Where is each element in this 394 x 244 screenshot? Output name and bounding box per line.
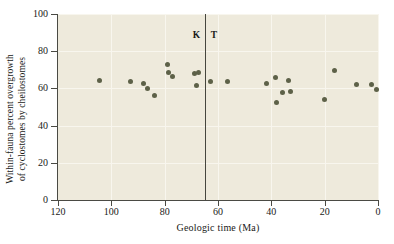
data-point [280,90,285,95]
kt-boundary-label-tertiary: T [211,30,217,40]
y-axis-spine [57,14,58,201]
x-axis-label: Geologic time (Ma) [58,222,378,233]
data-point [165,62,170,67]
y-axis-tick [51,14,57,15]
y-axis-tick [51,88,57,89]
y-axis-tick-label: 40 [8,121,48,131]
gridline-vertical [325,14,326,200]
data-point [264,81,269,86]
x-axis-tick-label: 40 [251,207,291,217]
data-point [194,83,199,88]
x-axis-tick-label: 0 [358,207,394,217]
y-axis-tick [51,200,57,201]
x-axis-tick-label: 20 [305,207,345,217]
data-point [225,79,230,84]
data-point [273,75,278,80]
data-point [374,87,379,92]
gridline-vertical [378,14,379,200]
data-point [274,100,279,105]
kt-boundary-line [205,14,206,200]
y-axis-tick-label: 0 [8,195,48,205]
data-point [354,82,359,87]
data-point [196,70,201,75]
y-axis-tick-label: 60 [8,83,48,93]
y-axis-tick [51,126,57,127]
data-point [332,68,337,73]
data-point [288,89,293,94]
data-point [145,86,150,91]
y-axis-tick-label: 80 [8,46,48,56]
x-axis-tick-label: 80 [145,207,185,217]
data-point [152,93,157,98]
kt-boundary-label-cretaceous: K [193,30,200,40]
y-axis-tick-label: 20 [8,158,48,168]
scatter-chart-figure: Within-fauna percent overgrowth of cyclo… [0,0,394,244]
data-point [97,78,102,83]
data-point [208,79,213,84]
gridline-vertical [271,14,272,200]
plot-area [58,14,378,200]
gridline-vertical [165,14,166,200]
data-point [170,74,175,79]
x-axis-tick-label: 60 [198,207,238,217]
y-axis-tick [51,51,57,52]
data-point [286,78,291,83]
y-axis-tick [51,163,57,164]
y-axis-tick-label: 100 [8,9,48,19]
gridline-vertical [218,14,219,200]
x-axis-tick-label: 120 [38,207,78,217]
data-point [322,97,327,102]
data-point [369,82,374,87]
data-point [128,79,133,84]
gridline-vertical [111,14,112,200]
x-axis-tick-label: 100 [91,207,131,217]
